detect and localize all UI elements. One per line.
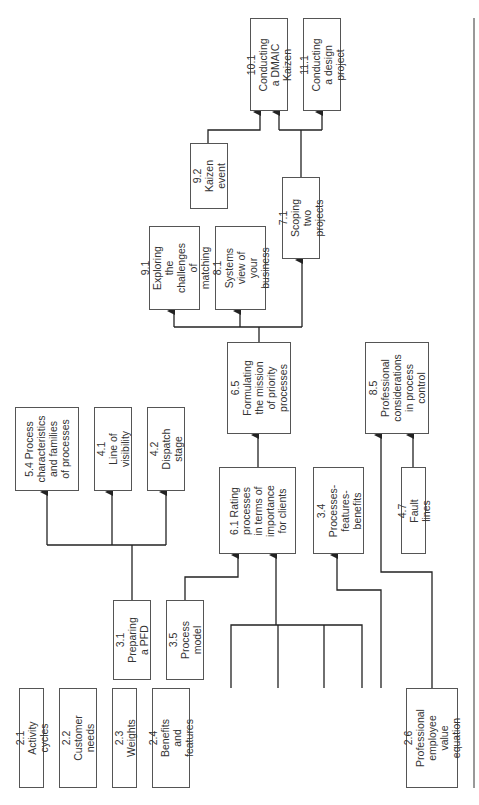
node-9-1-exploring-challenges: 9.1 Exploring the challenges of matching — [149, 226, 200, 310]
node-5-4-process-characteristics: 5.4 Process characteristics and families… — [15, 407, 79, 491]
node-4-7-fault-lines: 4.7 Fault lines — [401, 467, 426, 554]
node-3-4-processes-features-benefits: 3.4 Processes- features- benefits — [313, 467, 364, 554]
node-4-1-line-of-visibility: 4.1 Line of visibility — [94, 407, 132, 491]
node-3-1-preparing-pfd: 3.1 Preparing a PFD — [113, 600, 151, 680]
node-7-1-scoping-two-projects: 7.1 Scoping two projects — [282, 177, 320, 259]
node-2-6-professional-employee-value: 2.6 Professional employee value equation — [406, 688, 458, 788]
node-2-1-activity-cycles: 2.1 Activity cycles — [19, 688, 44, 788]
node-2-4-benefits-features: 2.4 Benefits and features — [152, 688, 190, 788]
node-9-2-kaizen-event: 9.2 Kaizen event — [190, 143, 228, 209]
node-2-2-customer-needs: 2.2 Customer needs — [59, 688, 97, 788]
node-3-5-process-model: 3.5 Process model — [166, 600, 204, 680]
node-2-3-weights: 2.3 Weights — [112, 688, 137, 788]
node-11-1-design-project: 11.1 Conducting a design project — [303, 18, 341, 111]
node-6-1-rating-processes: 6.1 Rating processes in terms of importa… — [219, 467, 296, 554]
diagram-canvas: 2.1 Activity cycles 2.2 Customer needs 2… — [0, 0, 479, 805]
node-6-5-formulating-mission: 6.5 Formulating the mission of priority … — [227, 342, 291, 434]
node-4-2-dispatch-stage: 4.2 Dispatch stage — [147, 407, 185, 491]
node-10-1-dmaic-kaizen: 10.1 Conducting a DMAIC Kaizen — [250, 18, 288, 111]
node-8-5-professional-considerations: 8.5 Professional considerations in proce… — [365, 342, 429, 434]
node-8-1-systems-view: 8.1 Systems view of your business — [215, 226, 266, 310]
